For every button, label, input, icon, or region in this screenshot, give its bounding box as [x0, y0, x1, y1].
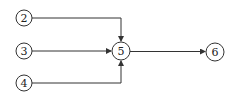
- node-5: 5: [112, 42, 130, 60]
- node-4-label: 4: [21, 77, 28, 90]
- edge-4-to-5: [32, 61, 121, 83]
- node-6: 6: [206, 43, 224, 61]
- node-6-label: 6: [212, 46, 219, 59]
- node-4: 4: [16, 75, 32, 91]
- node-2: 2: [16, 10, 32, 26]
- node-5-label: 5: [118, 45, 125, 58]
- node-2-label: 2: [21, 12, 28, 25]
- edge-2-to-5: [32, 18, 121, 41]
- network-diagram: 2 3 4 5 6: [0, 0, 236, 101]
- node-3: 3: [16, 43, 32, 59]
- node-3-label: 3: [21, 45, 28, 58]
